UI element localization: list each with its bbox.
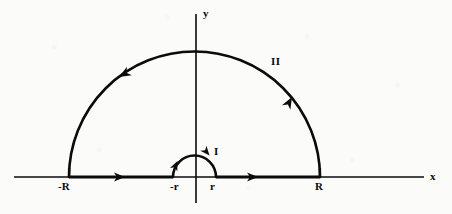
small-arc-label: I — [214, 146, 219, 157]
y-axis-label: y — [203, 8, 209, 19]
tick-label-small-r: r — [210, 181, 215, 192]
small-arc-path — [173, 156, 216, 178]
contour-integration-figure: x y -R -r r R I II — [0, 0, 452, 214]
tick-label-minus-small-r: -r — [170, 181, 179, 192]
tick-label-minus-big-R: -R — [58, 181, 70, 192]
x-axis-label: x — [430, 171, 436, 182]
arrowheads-group — [114, 67, 296, 182]
big-arc-path — [69, 52, 320, 177]
big-arc-label: II — [271, 56, 281, 67]
tick-label-big-R: R — [315, 181, 323, 192]
